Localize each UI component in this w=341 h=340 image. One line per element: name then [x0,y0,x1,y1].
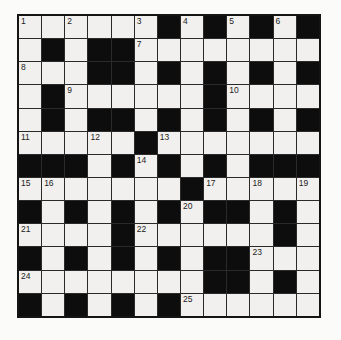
cell-r1c11[interactable] [274,39,296,61]
cell-r1c5[interactable]: 7 [135,39,157,61]
cell-r7c3[interactable] [88,178,110,200]
cell-r12c9[interactable] [227,294,249,316]
cell-r9c0[interactable]: 21 [19,224,41,246]
cell-r11c1[interactable] [42,271,64,293]
cell-r9c5[interactable]: 22 [135,224,157,246]
cell-r7c1[interactable]: 16 [42,178,64,200]
cell-r11c3[interactable] [88,271,110,293]
cell-r5c11[interactable] [274,132,296,154]
cell-r0c1[interactable] [42,16,64,38]
cell-r9c8[interactable] [204,224,226,246]
cell-r7c9[interactable] [227,178,249,200]
cell-r2c9[interactable] [227,62,249,84]
cell-r5c3[interactable]: 12 [88,132,110,154]
cell-r1c6[interactable] [158,39,180,61]
cell-r3c5[interactable] [135,85,157,107]
cell-r3c9[interactable]: 10 [227,85,249,107]
cell-r12c7[interactable]: 25 [181,294,203,316]
cell-r5c7[interactable] [181,132,203,154]
cell-r9c2[interactable] [65,224,87,246]
cell-r9c1[interactable] [42,224,64,246]
cell-r5c9[interactable] [227,132,249,154]
cell-r2c0[interactable]: 8 [19,62,41,84]
cell-r7c8[interactable]: 17 [204,178,226,200]
cell-r6c3[interactable] [88,155,110,177]
cell-r0c9[interactable]: 5 [227,16,249,38]
cell-r0c4[interactable] [112,16,134,38]
cell-r1c9[interactable] [227,39,249,61]
cell-r9c7[interactable] [181,224,203,246]
cell-r1c7[interactable] [181,39,203,61]
cell-r11c2[interactable] [65,271,87,293]
cell-r11c10[interactable] [250,271,272,293]
cell-r5c0[interactable]: 11 [19,132,41,154]
cell-r8c10[interactable] [250,201,272,223]
cell-r12c10[interactable] [250,294,272,316]
cell-r12c11[interactable] [274,294,296,316]
cell-r1c10[interactable] [250,39,272,61]
cell-r4c11[interactable] [274,109,296,131]
cell-r0c5[interactable]: 3 [135,16,157,38]
cell-r7c11[interactable] [274,178,296,200]
cell-r11c12[interactable] [297,271,319,293]
cell-r12c5[interactable] [135,294,157,316]
cell-r10c5[interactable] [135,247,157,269]
cell-r3c2[interactable]: 9 [65,85,87,107]
cell-r1c0[interactable] [19,39,41,61]
cell-r1c8[interactable] [204,39,226,61]
cell-r0c7[interactable]: 4 [181,16,203,38]
cell-r5c1[interactable] [42,132,64,154]
cell-r3c7[interactable] [181,85,203,107]
cell-r7c12[interactable]: 19 [297,178,319,200]
cell-r4c5[interactable] [135,109,157,131]
cell-r11c7[interactable] [181,271,203,293]
cell-r0c11[interactable]: 6 [274,16,296,38]
cell-r11c5[interactable] [135,271,157,293]
cell-r5c4[interactable] [112,132,134,154]
cell-r12c8[interactable] [204,294,226,316]
cell-r4c2[interactable] [65,109,87,131]
cell-r2c11[interactable] [274,62,296,84]
cell-r1c2[interactable] [65,39,87,61]
cell-r7c4[interactable] [112,178,134,200]
cell-r3c4[interactable] [112,85,134,107]
cell-r3c3[interactable] [88,85,110,107]
cell-r3c0[interactable] [19,85,41,107]
cell-r5c10[interactable] [250,132,272,154]
cell-r11c4[interactable] [112,271,134,293]
cell-r2c5[interactable] [135,62,157,84]
cell-r4c7[interactable] [181,109,203,131]
cell-r5c6[interactable]: 13 [158,132,180,154]
cell-r3c6[interactable] [158,85,180,107]
cell-r6c7[interactable] [181,155,203,177]
cell-r5c8[interactable] [204,132,226,154]
cell-r7c0[interactable]: 15 [19,178,41,200]
cell-r7c5[interactable] [135,178,157,200]
cell-r9c9[interactable] [227,224,249,246]
cell-r11c6[interactable] [158,271,180,293]
cell-r3c12[interactable] [297,85,319,107]
cell-r3c11[interactable] [274,85,296,107]
cell-r8c1[interactable] [42,201,64,223]
cell-r10c3[interactable] [88,247,110,269]
cell-r0c2[interactable]: 2 [65,16,87,38]
cell-r7c6[interactable] [158,178,180,200]
cell-r0c3[interactable] [88,16,110,38]
cell-r10c10[interactable]: 23 [250,247,272,269]
cell-r7c10[interactable]: 18 [250,178,272,200]
cell-r3c10[interactable] [250,85,272,107]
cell-r11c0[interactable]: 24 [19,271,41,293]
cell-r12c1[interactable] [42,294,64,316]
cell-r9c10[interactable] [250,224,272,246]
cell-r2c2[interactable] [65,62,87,84]
cell-r10c1[interactable] [42,247,64,269]
cell-r4c0[interactable] [19,109,41,131]
cell-r0c0[interactable]: 1 [19,16,41,38]
cell-r7c2[interactable] [65,178,87,200]
cell-r2c7[interactable] [181,62,203,84]
cell-r8c5[interactable] [135,201,157,223]
cell-r5c12[interactable] [297,132,319,154]
cell-r10c11[interactable] [274,247,296,269]
cell-r9c12[interactable] [297,224,319,246]
cell-r6c5[interactable]: 14 [135,155,157,177]
